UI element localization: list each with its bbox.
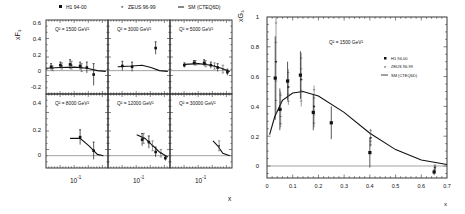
ytick-label: 0.2 — [33, 52, 42, 58]
h1-point — [92, 73, 95, 76]
sm-curve — [270, 92, 447, 165]
figure: H1 94-00 * ZEUS 96-99 SM (CTEQ6D) xF₃ 0.… — [0, 0, 465, 214]
h1-point — [330, 121, 333, 124]
sm-curve — [70, 138, 103, 155]
left-panels: Q² = 1500 GeV²Q² = 3000 GeV²Q² = 5000 Ge… — [46, 20, 232, 168]
h1-marker-icon — [59, 5, 62, 8]
zeus-point — [222, 68, 224, 70]
h1-point — [59, 64, 62, 67]
left-legend: H1 94-00 * ZEUS 96-99 SM (CTEQ6D) — [59, 4, 221, 11]
xtick-label: 0.2 — [315, 183, 323, 189]
ytick-label: 0 — [38, 152, 42, 158]
h1-point — [92, 149, 95, 152]
panel-3: Q² = 5000 GeV² — [170, 20, 232, 94]
ytick-label: 0.8 — [251, 44, 260, 50]
h1-marker-icon — [384, 57, 387, 60]
panel-label: Q² = 8000 GeV² — [55, 101, 89, 106]
legend-zeus-label: ZEUS 96-99 — [128, 4, 156, 10]
h1-point — [86, 66, 89, 69]
legend-h1-label: H1 94-00 — [66, 4, 87, 10]
h1-point — [141, 138, 144, 141]
zeus-point — [218, 145, 220, 147]
right-xticks: 00.10.20.30.40.50.60.7 — [265, 183, 450, 189]
panel-label: Q² = 3000 GeV² — [117, 27, 151, 32]
ytick-label: 1 — [256, 14, 260, 20]
h1-point — [226, 71, 229, 74]
right-plot-title: Q² = 1500 GeV² — [329, 40, 363, 45]
ytick-label: 0.2 — [251, 134, 260, 140]
h1-point — [79, 65, 82, 68]
h1-point — [121, 65, 124, 68]
h1-point — [154, 47, 157, 50]
zeus-marker-icon: * — [121, 5, 124, 11]
left-top-yticks: 0.6 0.4 0.2 0 -0.2 — [31, 20, 42, 90]
ytick-label: 0.4 — [251, 104, 260, 110]
h1-point — [286, 79, 289, 82]
h1-point — [69, 63, 72, 66]
panel-2: Q² = 3000 GeV² — [108, 20, 170, 94]
left-x-axis-label: x — [228, 195, 232, 202]
zeus-point — [160, 152, 162, 154]
xtick-label: 0.7 — [443, 183, 451, 189]
h1-point — [154, 151, 157, 154]
right-figure: xG₃ 1 0.8 0.6 0.4 0.2 0 00.10.20.30.40.5… — [237, 10, 451, 207]
legend-zeus-label: ZEUS 96-99 — [391, 64, 414, 69]
zeus-marker-icon: * — [384, 65, 386, 71]
panel-label: Q² = 5000 GeV² — [179, 27, 213, 32]
left-xticks: 10-1 10-1 10-1 — [70, 175, 207, 184]
zeus-point — [434, 166, 436, 168]
h1-point — [274, 76, 277, 79]
xtick-label: 0.3 — [340, 183, 348, 189]
zeus-point — [152, 145, 154, 147]
legend-sm-label: SM (CTEQ6D) — [188, 4, 221, 10]
h1-point — [131, 65, 134, 68]
xtick-label: 0.5 — [392, 183, 400, 189]
left-figure: H1 94-00 * ZEUS 96-99 SM (CTEQ6D) xF₃ 0.… — [14, 4, 232, 202]
h1-point — [210, 64, 213, 67]
panel-label: Q² = 1500 GeV² — [55, 27, 89, 32]
left-y-axis-label: xF₃ — [14, 29, 21, 40]
xtick-label: 10-1 — [195, 175, 207, 184]
right-y-axis-label: xG₃ — [237, 10, 244, 22]
legend-sm-label: SM (CTEQ6D) — [391, 73, 418, 78]
ytick-label: 0.4 — [33, 36, 42, 42]
xtick-label: 0.1 — [289, 183, 297, 189]
h1-point — [299, 74, 302, 77]
right-x-axis-label: x — [444, 201, 447, 207]
h1-point — [164, 157, 167, 160]
right-legend: H1 94-00 * ZEUS 96-99 SM (CTEQ6D) — [381, 56, 418, 78]
ytick-label: 0 — [38, 68, 42, 74]
panel-1: Q² = 1500 GeV² — [46, 20, 108, 94]
h1-point — [368, 151, 371, 154]
right-yticks: 1 0.8 0.6 0.4 0.2 0 — [251, 14, 260, 169]
h1-point — [50, 65, 53, 68]
panel-4: Q² = 8000 GeV² — [46, 94, 108, 168]
h1-point — [312, 111, 315, 114]
xtick-label: 10-1 — [70, 175, 82, 184]
h1-point — [183, 64, 186, 67]
xtick-label: 10-1 — [133, 175, 145, 184]
ytick-label: 0.2 — [33, 127, 42, 133]
panel-label: Q² = 12000 GeV² — [117, 101, 154, 106]
ytick-label: 0 — [256, 163, 260, 169]
h1-point — [79, 136, 82, 139]
ytick-label: 0.4 — [33, 100, 42, 106]
h1-point — [278, 108, 281, 111]
ytick-label: 0.6 — [33, 20, 42, 26]
panel-5: Q² = 12000 GeV² — [108, 94, 170, 168]
h1-point — [203, 62, 206, 65]
ytick-label: 0.6 — [251, 74, 260, 80]
xtick-label: 0 — [265, 183, 268, 189]
zeus-point — [214, 65, 216, 67]
left-bottom-yticks: 0.4 0.2 0 — [33, 100, 42, 158]
h1-point — [148, 141, 151, 144]
xtick-label: 0.4 — [366, 183, 374, 189]
h1-point — [216, 66, 219, 69]
h1-point — [433, 170, 436, 173]
ytick-label: -0.2 — [31, 84, 42, 90]
panel-label: Q² = 30000 GeV² — [179, 101, 216, 106]
legend-h1-label: H1 94-00 — [391, 56, 408, 61]
xtick-label: 0.6 — [417, 183, 425, 189]
sm-curve — [213, 141, 230, 156]
h1-point — [193, 62, 196, 65]
